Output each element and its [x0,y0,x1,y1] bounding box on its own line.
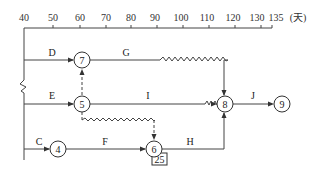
svg-text:7: 7 [80,55,85,66]
tick-90: 90 [150,12,160,23]
activity-j-label: J [251,90,255,101]
tick-80: 80 [126,12,136,23]
activity-h-label: H [186,136,193,147]
node-4: 4 [50,141,66,157]
node-6: 6 [146,141,162,157]
node-7: 7 [74,52,90,68]
tick-135: 135 [269,12,284,23]
node-5: 5 [74,96,90,112]
node-9: 9 [274,96,290,112]
svg-text:4: 4 [56,144,61,155]
tick-100: 100 [174,12,189,23]
activity-i-label: I [146,90,149,101]
tick-50: 50 [48,12,58,23]
tick-40: 40 [19,12,29,23]
svg-text:9: 9 [280,99,285,110]
start-line [20,36,26,160]
activity-f-label: F [102,136,108,147]
dummy-5-6-float [82,118,155,121]
activity-g-float [160,57,228,95]
node-8: 8 [217,96,233,112]
tick-60: 60 [75,12,85,23]
activity-c-label: C [36,136,43,147]
tick-110: 110 [200,12,215,23]
activity-d-label: D [48,47,55,58]
network-diagram: 40 50 60 70 80 90 100 110 120 130 135 (天… [0,0,328,181]
activity-e-label: E [49,90,55,101]
svg-text:6: 6 [152,144,157,155]
activity-g-label: G [122,47,129,58]
tick-120: 120 [226,12,241,23]
svg-text:8: 8 [223,99,228,110]
tick-130: 130 [250,12,265,23]
svg-text:5: 5 [80,99,85,110]
time-axis: 40 50 60 70 80 90 100 110 120 130 135 (天… [19,12,306,36]
tick-70: 70 [101,12,111,23]
axis-unit: (天) [290,12,307,24]
